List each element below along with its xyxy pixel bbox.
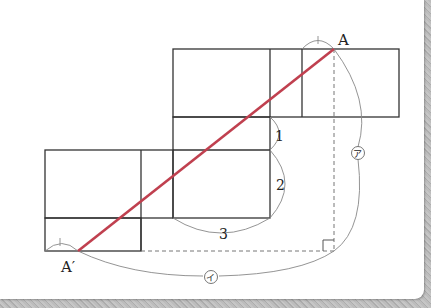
right-angle-icon bbox=[323, 240, 334, 251]
left-block bbox=[45, 150, 173, 218]
dimension-1-label: 1 bbox=[275, 128, 284, 144]
point-a-label: A bbox=[337, 31, 349, 49]
upper-strip bbox=[173, 49, 399, 117]
net-outline bbox=[45, 49, 399, 251]
middle-column bbox=[173, 117, 270, 218]
point-a-prime-label: A′ bbox=[60, 258, 76, 276]
dimension-2-label: 2 bbox=[276, 177, 285, 193]
bottom-left-face bbox=[45, 218, 141, 251]
label-a-text: ア bbox=[353, 149, 362, 159]
dimension-3-label: 3 bbox=[219, 226, 228, 242]
prism-net-diagram: A A′ 1 2 3 ア イ bbox=[0, 0, 431, 308]
label-i-text: イ bbox=[206, 273, 215, 283]
